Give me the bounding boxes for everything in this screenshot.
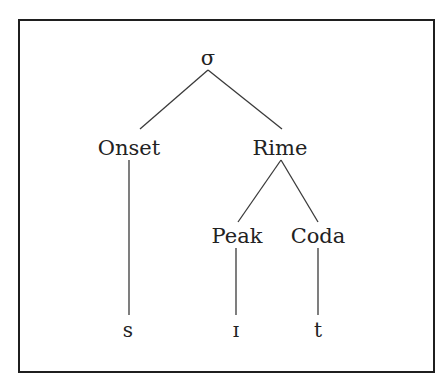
edge-sigma-rime [208, 70, 282, 129]
node-onset: Onset [98, 138, 160, 159]
edge-rime-peak [238, 160, 281, 222]
node-peak: Peak [212, 226, 263, 247]
node-coda: Coda [291, 226, 346, 247]
node-rime: Rime [253, 138, 308, 159]
segment-s: s [123, 320, 133, 340]
segment-i: ɪ [233, 320, 239, 340]
edge-rime-coda [281, 160, 318, 222]
root-sigma: σ [201, 48, 215, 69]
edge-sigma-onset [140, 70, 208, 129]
segment-t: t [314, 320, 322, 340]
tree-edges [0, 0, 447, 388]
